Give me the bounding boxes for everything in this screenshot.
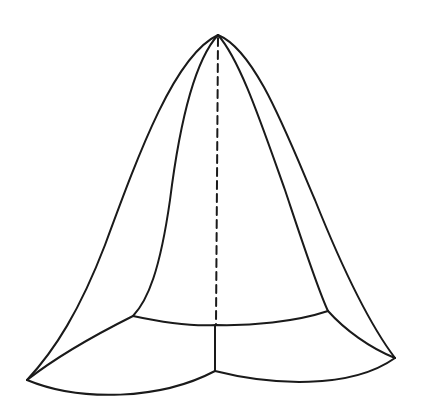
front-left-base-arc	[27, 371, 215, 395]
inner-right-rib	[218, 35, 328, 311]
hidden-center-axis-dashed	[216, 38, 218, 324]
left-inner-base-edge	[27, 316, 133, 380]
right-inner-base-edge	[328, 311, 395, 358]
rear-base-arc	[133, 311, 328, 325]
front-right-base-arc	[215, 358, 395, 382]
tent-shape-drawing	[0, 0, 421, 412]
inner-left-rib	[133, 35, 218, 316]
outer-left-rib	[27, 35, 218, 380]
line-drawing-figure	[0, 0, 421, 412]
